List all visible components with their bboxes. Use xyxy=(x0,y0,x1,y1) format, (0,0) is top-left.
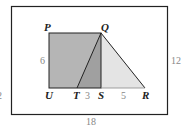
geometry-diagram: P Q U T S R 6 3 5 12 18 2 xyxy=(0,0,188,127)
measure-side: 6 xyxy=(40,55,45,66)
measure-SR: 5 xyxy=(121,90,126,101)
measure-width: 18 xyxy=(86,116,96,127)
measure-height: 12 xyxy=(171,55,181,66)
label-T: T xyxy=(73,89,81,101)
label-Q: Q xyxy=(101,21,109,33)
label-S: S xyxy=(98,89,104,101)
measure-TS: 3 xyxy=(85,90,90,101)
label-P: P xyxy=(44,21,51,33)
label-R: R xyxy=(141,89,149,101)
label-U: U xyxy=(45,89,54,101)
measure-partial: 2 xyxy=(0,90,2,101)
